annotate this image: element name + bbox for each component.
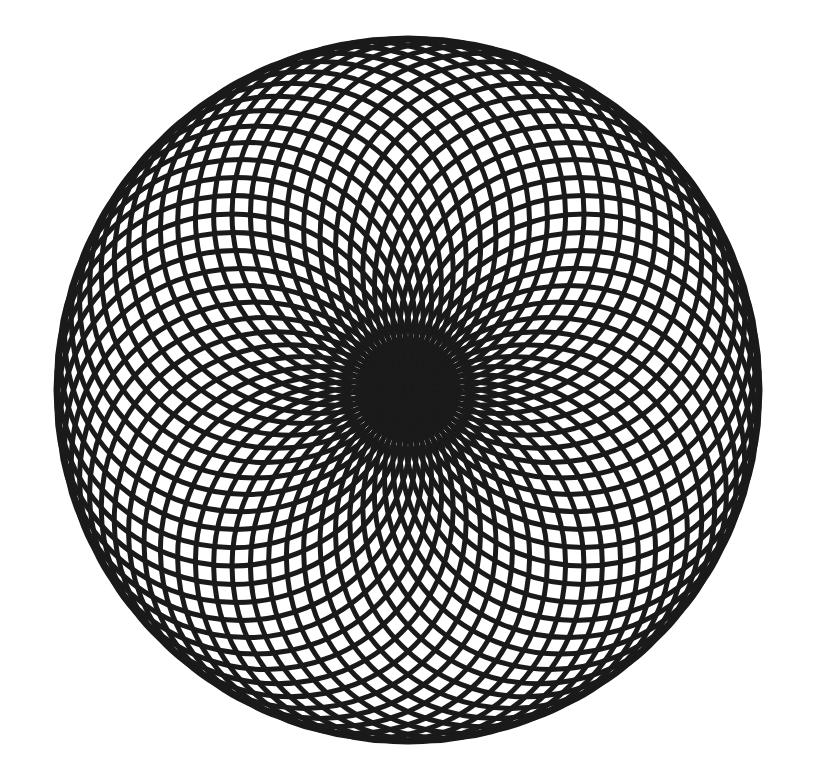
spirograph-rosette-figure: [0, 0, 823, 781]
artboard: [0, 0, 823, 781]
